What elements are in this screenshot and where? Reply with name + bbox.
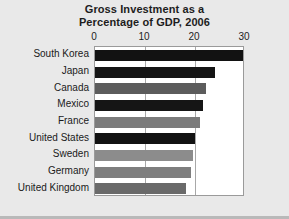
- category-label: United States: [29, 132, 89, 143]
- category-label: France: [58, 115, 89, 126]
- x-tick-label: 0: [91, 31, 97, 43]
- bar: [95, 67, 215, 78]
- category-label: Mexico: [57, 98, 89, 109]
- plot-area: [94, 46, 244, 196]
- bar: [95, 133, 195, 144]
- bar: [95, 167, 191, 178]
- x-tick-label: 10: [138, 31, 149, 43]
- category-label: Germany: [48, 165, 89, 176]
- bar: [95, 100, 203, 111]
- chart-title-line-1: Gross Investment as a: [0, 3, 289, 16]
- y-axis-category-labels: South KoreaJapanCanadaMexicoFranceUnited…: [0, 46, 92, 196]
- bars-layer: [95, 47, 243, 195]
- bar: [95, 50, 243, 61]
- bar: [95, 183, 186, 194]
- bar: [95, 150, 193, 161]
- category-label: Canada: [54, 82, 89, 93]
- category-label: South Korea: [33, 48, 89, 59]
- bar: [95, 117, 200, 128]
- chart-figure: Gross Investment as a Percentage of GDP,…: [0, 0, 289, 219]
- category-label: Sweden: [53, 148, 89, 159]
- chart-title: Gross Investment as a Percentage of GDP,…: [0, 3, 289, 29]
- chart-title-line-2: Percentage of GDP, 2006: [0, 16, 289, 29]
- x-axis-tick-labels: 0102030: [0, 31, 289, 45]
- x-tick-label: 20: [188, 31, 199, 43]
- category-label: Japan: [62, 65, 89, 76]
- x-tick-label: 30: [238, 31, 249, 43]
- category-label: United Kingdom: [18, 182, 89, 193]
- bar: [95, 83, 206, 94]
